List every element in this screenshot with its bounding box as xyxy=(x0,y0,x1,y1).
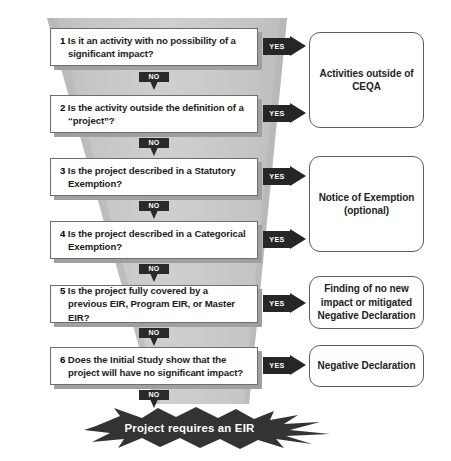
yes-arrow-6-body: YES xyxy=(263,357,291,374)
yes-arrow-1[interactable]: YES xyxy=(263,38,307,55)
yes-arrow-6-head xyxy=(290,355,306,375)
question-6-body: Does the Initial Study show that the pro… xyxy=(68,354,243,378)
final-outcome-label: Project requires an EIR xyxy=(84,406,295,450)
question-4-text: 4 Is the project described in a Categori… xyxy=(60,227,249,253)
no-badge-1-label: NO xyxy=(139,72,169,82)
no-badge-2-label: NO xyxy=(139,138,169,148)
yes-arrow-3-label: YES xyxy=(269,173,284,180)
question-6-number: 6 xyxy=(60,354,65,365)
question-3-text: 3 Is the project described in a Statutor… xyxy=(60,164,249,190)
yes-arrow-2-body: YES xyxy=(263,105,291,122)
question-3-number: 3 xyxy=(60,165,65,176)
no-badge-1[interactable]: NO xyxy=(139,72,169,90)
question-2-body: Is the activity outside the definition o… xyxy=(68,102,244,126)
question-4-number: 4 xyxy=(60,228,65,239)
no-badge-3-label: NO xyxy=(139,201,169,211)
yes-arrow-5-head xyxy=(290,293,306,313)
yes-arrow-3-head xyxy=(290,166,306,186)
question-1-number: 1 xyxy=(60,35,65,46)
question-1-body: Is it an activity with no possibility of… xyxy=(68,35,236,59)
question-5-body: Is the project fully covered by a previo… xyxy=(68,285,235,322)
yes-arrow-2[interactable]: YES xyxy=(263,105,307,122)
yes-arrow-5-label: YES xyxy=(269,300,284,307)
question-box-4[interactable]: 4 Is the project described in a Categori… xyxy=(50,221,258,259)
question-5-number: 5 xyxy=(60,285,65,296)
no-badge-4[interactable]: NO xyxy=(139,264,169,282)
outcome-3-text: Finding of no new impact or mitigated Ne… xyxy=(310,282,423,322)
question-1-text: 1 Is it an activity with no possibility … xyxy=(60,34,249,60)
yes-arrow-1-body: YES xyxy=(263,38,291,55)
question-2-number: 2 xyxy=(60,102,65,113)
question-3-body: Is the project described in a Statutory … xyxy=(68,165,236,189)
yes-arrow-4[interactable]: YES xyxy=(263,231,307,248)
question-4-body: Is the project described in a Categorica… xyxy=(68,228,246,252)
yes-arrow-2-head xyxy=(290,103,306,123)
yes-arrow-3-body: YES xyxy=(263,168,291,185)
outcome-1-text: Activities outside of CEQA xyxy=(310,67,423,94)
outcome-box-negative-declaration[interactable]: Negative Declaration xyxy=(309,345,424,387)
no-badge-5[interactable]: NO xyxy=(139,328,169,346)
yes-arrow-5-body: YES xyxy=(263,295,291,312)
question-box-6[interactable]: 6 Does the Initial Study show that the p… xyxy=(50,347,258,385)
outcome-box-notice-of-exemption[interactable]: Notice of Exemption (optional) xyxy=(309,156,424,252)
yes-arrow-5[interactable]: YES xyxy=(263,295,307,312)
no-badge-2[interactable]: NO xyxy=(139,138,169,156)
yes-arrow-1-label: YES xyxy=(269,43,284,50)
yes-arrow-6[interactable]: YES xyxy=(263,357,307,374)
no-badge-6-label: NO xyxy=(139,390,169,400)
no-badge-5-label: NO xyxy=(139,328,169,338)
yes-arrow-3[interactable]: YES xyxy=(263,168,307,185)
no-badge-3[interactable]: NO xyxy=(139,201,169,219)
outcome-box-activities-outside-ceqa[interactable]: Activities outside of CEQA xyxy=(309,32,424,128)
question-5-text: 5 Is the project fully covered by a prev… xyxy=(60,284,249,324)
no-badge-4-label: NO xyxy=(139,264,169,274)
question-box-1[interactable]: 1 Is it an activity with no possibility … xyxy=(50,28,258,66)
yes-arrow-4-body: YES xyxy=(263,231,291,248)
outcome-box-finding-of-no-new-impact[interactable]: Finding of no new impact or mitigated Ne… xyxy=(309,276,424,329)
yes-arrow-1-head xyxy=(290,36,306,56)
final-outcome-banner[interactable]: Project requires an EIR xyxy=(84,406,334,450)
yes-arrow-2-label: YES xyxy=(269,110,284,117)
yes-arrow-6-label: YES xyxy=(269,362,284,369)
yes-arrow-4-head xyxy=(290,229,306,249)
question-6-text: 6 Does the Initial Study show that the p… xyxy=(60,353,249,379)
question-box-3[interactable]: 3 Is the project described in a Statutor… xyxy=(50,158,258,196)
flowchart-canvas: 1 Is it an activity with no possibility … xyxy=(0,0,451,461)
question-box-5[interactable]: 5 Is the project fully covered by a prev… xyxy=(50,285,258,323)
question-2-text: 2 Is the activity outside the definition… xyxy=(60,101,249,127)
outcome-4-text: Negative Declaration xyxy=(313,359,421,372)
yes-arrow-4-label: YES xyxy=(269,236,284,243)
question-box-2[interactable]: 2 Is the activity outside the definition… xyxy=(50,95,258,133)
outcome-2-text: Notice of Exemption (optional) xyxy=(310,191,423,218)
